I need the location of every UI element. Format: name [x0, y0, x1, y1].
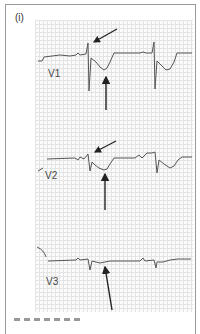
- lead-v2-trace: [38, 152, 192, 173]
- arrow-v2-upper: [95, 141, 116, 152]
- lead-label-v1: V1: [48, 68, 60, 79]
- lead-label-v3: V3: [46, 276, 58, 287]
- arrow-v1-upper: [94, 29, 117, 42]
- lead-v3-trace: [37, 247, 191, 270]
- caption-cutoff: [14, 318, 84, 321]
- lead-v2-arrows: [95, 141, 116, 210]
- lead-v1-trace: [38, 42, 192, 91]
- lead-label-v2: V2: [45, 170, 57, 181]
- arrow-v3: [105, 267, 112, 310]
- lead-v3-arrows: [105, 267, 112, 310]
